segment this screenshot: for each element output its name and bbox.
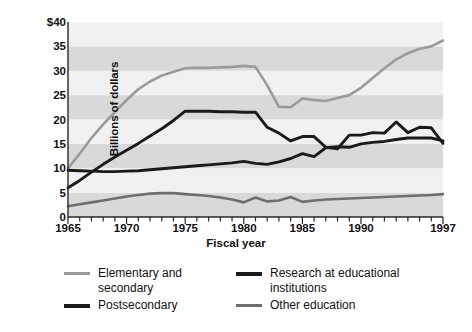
x-axis-title: Fiscal year [0, 237, 472, 249]
legend-item[interactable]: Other education [236, 298, 355, 313]
legend-swatch-icon [236, 272, 262, 276]
x-axis-tick-label: 1985 [290, 222, 316, 234]
chart-legend: Elementary and secondaryResearch at educ… [0, 264, 472, 332]
legend-item-label: Research at educational institutions [270, 266, 399, 295]
y-axis-tick-label: 10 [28, 162, 66, 174]
y-axis-tick-label: $40 [28, 16, 66, 28]
x-axis-tick-label: 1997 [430, 222, 456, 234]
y-axis-tick-label: 15 [28, 138, 66, 150]
y-axis-tick-label: 35 [28, 40, 66, 52]
legend-swatch-icon [64, 304, 90, 308]
x-axis-tick-label: 1980 [231, 222, 257, 234]
legend-item-label: Postsecondary [98, 298, 177, 313]
x-axis-tick-label: 1965 [55, 222, 81, 234]
y-axis-tick-label: 20 [28, 114, 66, 126]
legend-item[interactable]: Elementary and secondary [64, 266, 182, 295]
chart-figure: Billions of dollars 05101520253035$40 19… [0, 0, 472, 332]
legend-item-label: Elementary and secondary [98, 266, 182, 295]
legend-swatch-icon [236, 304, 262, 307]
grid-band [68, 22, 443, 46]
x-axis-tick-label: 1970 [114, 222, 140, 234]
legend-item[interactable]: Postsecondary [64, 298, 177, 313]
x-axis-tick-label: 1975 [172, 222, 198, 234]
x-axis-tick-label: 1990 [348, 222, 374, 234]
grid-band [68, 71, 443, 95]
legend-swatch-icon [64, 272, 90, 275]
y-axis-tick-label: 30 [28, 65, 66, 77]
y-axis-tick-label: 5 [28, 187, 66, 199]
legend-item[interactable]: Research at educational institutions [236, 266, 399, 295]
grid-band [68, 95, 443, 119]
legend-item-label: Other education [270, 298, 355, 313]
y-axis-tick-label: 25 [28, 89, 66, 101]
